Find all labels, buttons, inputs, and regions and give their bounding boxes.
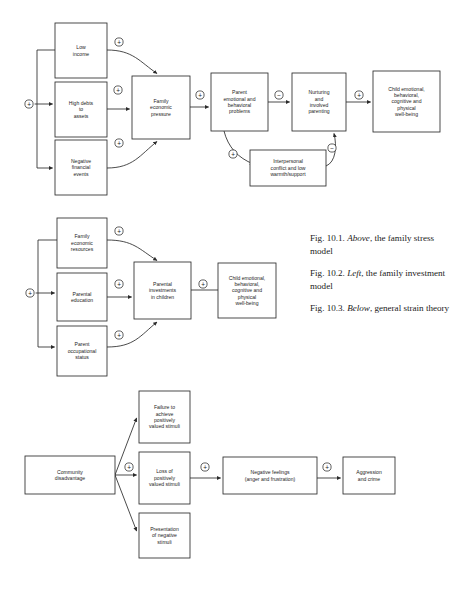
caption-emphasis: Above [347,233,370,243]
diagram-general-strain-theory: CommunitydisadvantageFailure toachievepo… [25,391,395,558]
sign-symbol: + [117,332,121,339]
node-label-line: physical [238,294,256,300]
node-label-line: of negative [152,532,177,538]
node-label-line: Child emotional, [388,86,425,92]
node-label-line: status [75,354,89,360]
node-label-line: assets [74,113,89,119]
node-label-line: conflict and low [271,165,306,171]
node-presentation-negative: Presentationof negativestimuli [139,513,190,558]
node-label-line: warmth/support [270,171,306,177]
plus-sign-icon: + [125,463,133,471]
node-child-wellbeing: Child emotional,behavioral,cognitive and… [218,263,276,318]
node-family-economic-pressure: Familyeconomicpressure [132,76,190,139]
connector-arrow [38,240,57,293]
node-label-line: (anger and frustration) [245,476,296,482]
plus-sign-icon: + [196,91,204,99]
plus-sign-icon: + [229,150,237,158]
node-negative-financial: Negativefinancialevents [55,140,107,195]
node-parent-problems: Parentemotional andbehavioralproblems [211,73,268,131]
node-label-line: disadvantage [55,475,85,481]
plus-sign-icon: + [114,86,122,94]
minus-sign-icon: − [275,91,283,99]
node-label-line: cognitive and [391,98,421,104]
node-label-line: education [71,297,93,303]
plus-sign-icon: + [115,227,123,235]
node-label-line: physical [397,105,415,111]
node-label-line: Family [75,233,90,239]
node-label-line: parenting [308,108,329,114]
connector-arrow [37,104,53,168]
plus-sign-icon: + [115,38,123,46]
node-label-line: valued stimuli [149,481,180,487]
sign-symbol: − [277,92,281,99]
node-label-line: behavioral [228,102,252,108]
node-label-line: Negative [71,158,91,164]
plus-sign-icon: + [355,91,363,99]
node-negative-feelings: Negative feelings(anger and frustration) [223,457,317,494]
node-label-line: occupational [68,348,97,354]
sign-symbol: + [203,464,207,471]
node-label-line: Community [57,469,83,475]
connector-arrow [224,131,254,164]
caption-prefix: Fig. 10.2. [310,268,347,278]
connector-arrow [38,293,55,347]
node-label-line: and crime [358,476,381,482]
plus-sign-icon: + [323,463,331,471]
caption-emphasis: Left [347,268,361,278]
node-label-line: to [79,106,83,112]
plus-sign-icon: + [115,331,123,339]
plus-sign-icon: + [199,280,207,288]
connector-arrow [107,322,157,347]
connector-arrow [37,50,55,104]
diagram-family-investment-model: FamilyeconomicresourcesParentaleducation… [26,218,276,376]
sign-symbol: + [127,464,131,471]
node-label-line: Child emotional, [229,275,266,281]
sign-symbol: + [231,151,235,158]
sign-symbol: + [117,39,121,46]
node-high-debts: High debtstoassets [55,82,107,137]
node-label-line: Parental [153,281,172,287]
figure-caption-3: Fig. 10.3. Below, general strain theory [310,302,450,315]
caption-suffix: , general strain theory [370,303,449,313]
plus-sign-icon: + [115,139,123,147]
node-label-line: Low [76,44,86,50]
node-community-disadvantage: Communitydisadvantage [25,456,115,494]
node-label-line: financial [72,164,91,170]
node-parent-occupational-status: Parentoccupationalstatus [57,326,107,376]
figure-caption-2: Fig. 10.2. Left, the family investment m… [310,267,450,293]
sign-symbol: + [117,140,121,147]
sign-symbol: + [357,92,361,99]
node-label-line: resources [71,246,94,252]
node-parental-investments: Parentalinvestmentsin children [134,262,191,319]
node-label-line: and [315,96,324,102]
node-label-line: valued stimuli [149,423,180,429]
node-label-line: pressure [151,111,171,117]
minus-sign-icon: − [328,144,336,152]
node-label-line: positively [154,417,175,423]
node-label-line: involved [310,102,329,108]
node-label-line: Parental [73,291,92,297]
plus-sign-icon: + [115,280,123,288]
node-label-line: well-being [395,111,418,117]
caption-emphasis: Below [347,303,370,313]
connector-arrow [107,142,157,169]
node-failure-to-achieve: Failure toachievepositivelyvalued stimul… [139,391,190,443]
sign-symbol: + [27,101,31,108]
node-label-line: emotional and [223,96,255,102]
node-label-line: Parent [232,89,248,95]
node-interpersonal-conflict: Interpersonalconflict and lowwarmth/supp… [250,150,326,186]
plus-sign-icon: + [201,463,209,471]
node-family-economic-resources: Familyeconomicresources [57,218,107,268]
node-label-line: Nurturing [309,89,330,95]
caption-prefix: Fig. 10.1. [310,233,347,243]
node-nurturing-parenting: Nurturingandinvolvedparenting [292,73,346,131]
node-label-line: Negative feelings [250,469,290,475]
sign-symbol: + [117,228,121,235]
node-label-line: achieve [156,411,174,417]
plus-sign-icon: + [25,100,33,108]
sign-symbol: − [330,145,334,152]
sign-symbol: + [325,464,329,471]
node-label-line: Parent [74,341,90,347]
node-label-line: behavioral, [394,92,419,98]
sign-symbol: + [117,281,121,288]
